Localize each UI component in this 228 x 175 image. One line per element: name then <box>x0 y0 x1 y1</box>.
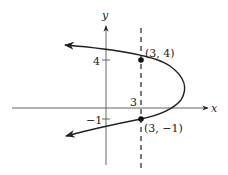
point-3-4 <box>138 57 144 63</box>
tick-label-minus1: −1 <box>86 114 102 127</box>
point-label-3-4: (3, 4) <box>145 47 175 60</box>
tick-label-4: 4 <box>93 55 100 68</box>
graph: y x 3 4 −1 (3, 4) (3, −1) <box>0 0 228 175</box>
plot-svg: y x 3 4 −1 (3, 4) (3, −1) <box>0 0 228 175</box>
y-axis-label: y <box>101 9 109 22</box>
x-axis-label: x <box>211 102 218 115</box>
point-label-3-m1: (3, −1) <box>144 122 183 135</box>
tick-label-3: 3 <box>130 96 137 109</box>
point-3-m1 <box>138 116 144 122</box>
